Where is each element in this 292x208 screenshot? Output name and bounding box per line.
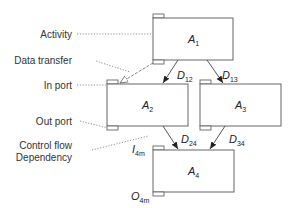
port-label-i4m: I4m [132,143,145,157]
edge-d34 [210,126,225,149]
out-port-a3[interactable] [200,126,211,130]
in-port-a1[interactable] [153,14,164,18]
edge-d24-label: D24 [181,133,197,147]
activity-diagram: Activity Data transfer In port Out port … [0,0,292,208]
leader-control-flow [92,136,148,150]
edge-d24 [163,126,178,149]
in-port-a3[interactable] [200,80,211,84]
edge-d12 [163,60,178,83]
in-port-a4[interactable] [153,146,164,150]
legend-data-transfer: Data transfer [14,55,72,66]
out-port-a2[interactable] [107,126,118,130]
activity-a1[interactable]: A1 [153,14,233,64]
legend-dependency: Dependency [16,152,72,163]
edge-d12-label: D12 [177,69,193,83]
legend-in-port: In port [44,80,73,91]
in-port-a2[interactable] [107,80,118,84]
out-port-a4[interactable] [153,192,164,196]
edge-d13-label: D13 [222,69,238,83]
leader-data-transfer [96,61,130,72]
data-transfer-edge [120,63,153,83]
port-label-o4m: O4m [131,190,149,204]
activity-a4[interactable]: A4 [153,146,234,196]
activity-a2[interactable]: A2 [107,80,188,130]
leader-out-port [80,121,108,128]
legend-out-port: Out port [36,116,72,127]
legend-control-flow: Control flow [19,140,73,151]
legend-activity: Activity [40,29,72,40]
activity-a3[interactable]: A3 [200,80,281,130]
edge-d34-label: D34 [229,133,245,147]
out-port-a1[interactable] [153,60,164,64]
